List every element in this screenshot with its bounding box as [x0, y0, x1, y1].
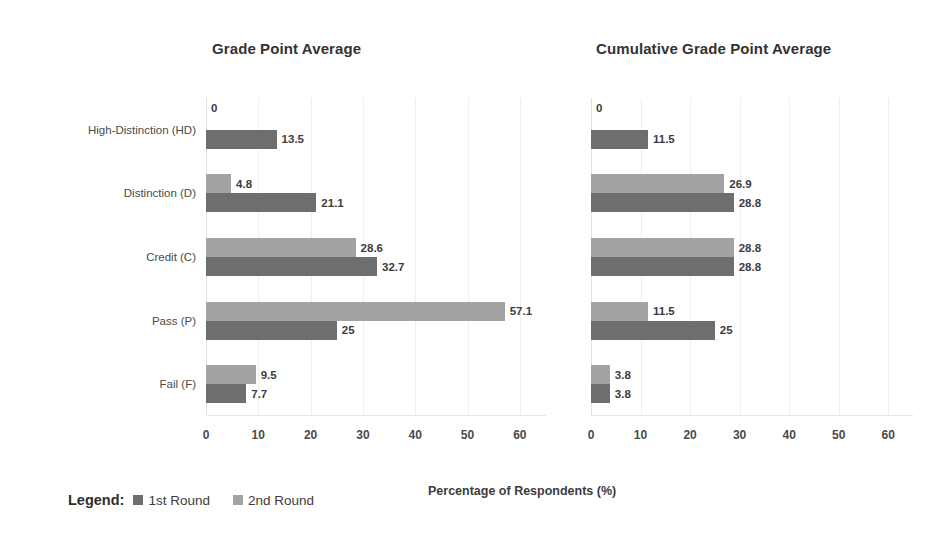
- bar-row-1st-round: 3.8: [591, 384, 913, 403]
- bar-value-1st-round: 25: [715, 324, 733, 336]
- bar-1st-round[interactable]: [206, 384, 246, 403]
- x-tick-label: 40: [782, 428, 795, 442]
- x-tick-label: 60: [882, 428, 895, 442]
- x-tick-label: 0: [203, 428, 210, 442]
- x-axis-ticks-right: 0102030405060: [591, 428, 913, 450]
- bar-group: 3.83.8: [591, 365, 913, 403]
- chart-title-left: Grade Point Average: [212, 40, 361, 57]
- bar-1st-round[interactable]: [591, 257, 734, 276]
- x-tick-label: 30: [356, 428, 369, 442]
- bar-row-2nd-round: 11.5: [591, 302, 913, 321]
- x-axis-title: Percentage of Respondents (%): [428, 484, 616, 498]
- bar-row-1st-round: 25: [591, 321, 913, 340]
- bar-row-2nd-round: 3.8: [591, 365, 913, 384]
- bar-row-2nd-round: 28.8: [591, 238, 913, 257]
- x-axis-ticks-left: 0102030405060: [206, 428, 546, 450]
- x-tick-label: 50: [832, 428, 845, 442]
- bar-row-2nd-round: 0: [206, 111, 546, 130]
- bar-2nd-round[interactable]: [206, 238, 356, 257]
- legend-swatch-2nd-round: [233, 495, 243, 505]
- legend-swatch-1st-round: [133, 495, 143, 505]
- x-tick-label: 30: [733, 428, 746, 442]
- bar-group: 11.525: [591, 302, 913, 340]
- bar-1st-round[interactable]: [591, 321, 715, 340]
- bar-1st-round[interactable]: [206, 321, 337, 340]
- x-tick-label: 20: [304, 428, 317, 442]
- bar-value-2nd-round: 57.1: [505, 305, 532, 317]
- bar-1st-round[interactable]: [591, 193, 734, 212]
- bar-2nd-round[interactable]: [591, 302, 648, 321]
- category-axis: High-Distinction (HD)Distinction (D)Cred…: [20, 98, 196, 416]
- bar-row-1st-round: 7.7: [206, 384, 546, 403]
- bar-row-2nd-round: 4.8: [206, 174, 546, 193]
- x-tick-label: 10: [634, 428, 647, 442]
- bar-row-2nd-round: 9.5: [206, 365, 546, 384]
- bar-value-2nd-round: 28.8: [734, 242, 761, 254]
- bar-1st-round[interactable]: [206, 130, 277, 149]
- category-label: Distinction (D): [20, 187, 196, 199]
- bar-group: 28.632.7: [206, 238, 546, 276]
- chart-title-right: Cumulative Grade Point Average: [596, 40, 831, 57]
- bar-1st-round[interactable]: [206, 257, 377, 276]
- bar-2nd-round[interactable]: [206, 302, 505, 321]
- bar-group: 4.821.1: [206, 174, 546, 212]
- bar-value-1st-round: 32.7: [377, 261, 404, 273]
- bar-group: 28.828.8: [591, 238, 913, 276]
- bar-value-1st-round: 13.5: [277, 133, 304, 145]
- x-tick-label: 10: [252, 428, 265, 442]
- bar-value-2nd-round: 0: [206, 102, 217, 114]
- bar-value-1st-round: 7.7: [246, 388, 267, 400]
- legend-label-1st-round: 1st Round: [148, 493, 210, 508]
- bar-value-2nd-round: 28.6: [356, 242, 383, 254]
- bar-group: 013.5: [206, 111, 546, 149]
- x-tick-label: 60: [513, 428, 526, 442]
- bar-row-1st-round: 32.7: [206, 257, 546, 276]
- category-label: Fail (F): [20, 378, 196, 390]
- x-axis-line-right: [591, 415, 913, 416]
- chart-figure: Grade Point Average Cumulative Grade Poi…: [0, 0, 944, 536]
- legend-label-2nd-round: 2nd Round: [248, 493, 314, 508]
- category-label: Pass (P): [20, 315, 196, 327]
- category-label: High-Distinction (HD): [20, 124, 196, 136]
- bar-value-1st-round: 28.8: [734, 261, 761, 273]
- bar-row-1st-round: 21.1: [206, 193, 546, 212]
- bar-group: 9.57.7: [206, 365, 546, 403]
- bar-1st-round[interactable]: [206, 193, 316, 212]
- plot-area-left: 013.54.821.128.632.757.1259.57.7: [206, 98, 546, 416]
- bar-row-2nd-round: 57.1: [206, 302, 546, 321]
- bar-2nd-round[interactable]: [206, 174, 231, 193]
- bar-row-1st-round: 28.8: [591, 257, 913, 276]
- bar-group: 011.5: [591, 111, 913, 149]
- bar-row-2nd-round: 28.6: [206, 238, 546, 257]
- bar-value-2nd-round: 3.8: [610, 369, 631, 381]
- bar-value-2nd-round: 0: [591, 102, 602, 114]
- bar-row-1st-round: 13.5: [206, 130, 546, 149]
- x-tick-label: 40: [409, 428, 422, 442]
- bar-1st-round[interactable]: [591, 384, 610, 403]
- legend-item-2nd-round[interactable]: 2nd Round: [233, 493, 314, 508]
- bar-row-1st-round: 11.5: [591, 130, 913, 149]
- bar-value-2nd-round: 4.8: [231, 178, 252, 190]
- bar-value-1st-round: 11.5: [648, 133, 675, 145]
- bar-2nd-round[interactable]: [206, 365, 256, 384]
- bar-group: 57.125: [206, 302, 546, 340]
- bar-1st-round[interactable]: [591, 130, 648, 149]
- x-tick-label: 20: [683, 428, 696, 442]
- legend-item-1st-round[interactable]: 1st Round: [133, 493, 210, 508]
- bar-2nd-round[interactable]: [591, 174, 724, 193]
- legend-title: Legend:: [68, 492, 124, 508]
- bar-2nd-round[interactable]: [591, 238, 734, 257]
- bar-row-2nd-round: 26.9: [591, 174, 913, 193]
- bar-group: 26.928.8: [591, 174, 913, 212]
- bar-value-2nd-round: 26.9: [724, 178, 751, 190]
- bar-value-1st-round: 21.1: [316, 197, 343, 209]
- bar-value-2nd-round: 11.5: [648, 305, 675, 317]
- legend: Legend: 1st Round 2nd Round: [68, 492, 330, 508]
- bar-value-1st-round: 28.8: [734, 197, 761, 209]
- x-tick-label: 0: [588, 428, 595, 442]
- bar-row-1st-round: 25: [206, 321, 546, 340]
- bar-row-2nd-round: 0: [591, 111, 913, 130]
- plot-area-right: 011.526.928.828.828.811.5253.83.8: [591, 98, 913, 416]
- bar-2nd-round[interactable]: [591, 365, 610, 384]
- bar-row-1st-round: 28.8: [591, 193, 913, 212]
